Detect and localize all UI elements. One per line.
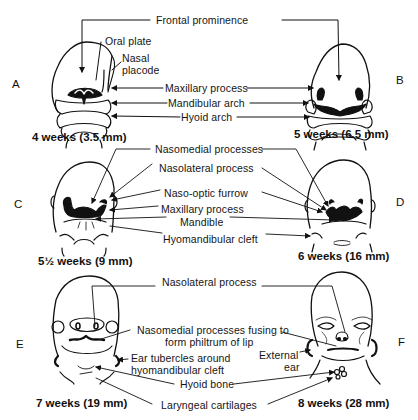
panel-letter-b: B [396,74,404,86]
label-naso-optic-furrow: Naso-optic furrow [164,187,248,199]
embryo-c-drawing [51,162,117,256]
label-nasomedial-fusing-line1: Nasomedial processes fusing to [137,324,289,336]
panel-letter-e: E [16,338,24,350]
label-ear-tubercles-line2: hyomandibular cleft [131,364,224,376]
label-mandible: Mandible [180,216,223,228]
label-nasal-placode-line1: Nasal [122,52,149,64]
panel-letter-c: C [14,198,22,210]
label-nasolateral-process-row3: Nasolateral process [162,276,257,288]
caption-c: 5½ weeks (9 mm) [38,255,133,267]
panel-letter-a: A [12,78,20,90]
label-maxillary-process-row1: Maxillary process [165,82,248,94]
label-maxillary-process-row2: Maxillary process [161,203,244,215]
label-hyomandibular-cleft: Hyomandibular cleft [163,233,258,245]
embryo-d-drawing [305,160,375,252]
label-frontal-prominence: Frontal prominence [156,14,248,26]
label-external-ear-line1: External [259,349,298,361]
label-ear-tubercles-line1: Ear tubercles around [131,352,230,364]
label-oral-plate: Oral plate [105,35,152,47]
panel-letter-f: F [398,336,405,348]
label-nasomedial-processes: Nasomedial processes [155,143,263,155]
panel-letter-d: D [396,196,404,208]
label-laryngeal-cartilages: Laryngeal cartilages [161,399,257,411]
embryo-face-development-figure: A B C D E F 4 weeks (3.5 mm) 5 weeks (6.… [0,0,418,420]
label-hyoid-bone: Hyoid bone [180,378,234,390]
caption-a: 4 weeks (3.5 mm) [32,131,127,143]
label-nasal-placode-line2: placode [122,64,159,76]
caption-b: 5 weeks (6.5 mm) [294,128,389,140]
label-nasomedial-fusing-line2: form philtrum of lip [165,336,253,348]
label-external-ear-line2: ear [284,361,299,373]
caption-f: 8 weeks (28 mm) [298,397,389,409]
caption-e: 7 weeks (19 mm) [36,397,127,409]
label-nasolateral-process-row2: Nasolateral process [159,162,254,174]
label-mandibular-arch: Mandibular arch [168,97,245,109]
embryo-e-drawing [52,276,119,384]
label-hyoid-arch: Hyoid arch [181,111,232,123]
caption-d: 6 weeks (16 mm) [298,250,389,262]
